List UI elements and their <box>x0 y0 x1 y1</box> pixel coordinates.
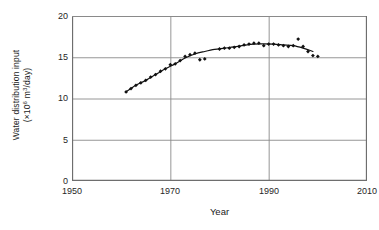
data-point <box>272 42 276 46</box>
data-point <box>232 45 236 49</box>
data-point <box>242 43 246 47</box>
data-point <box>267 42 271 46</box>
data-point <box>218 47 222 51</box>
data-point <box>296 37 300 41</box>
data-point <box>247 42 251 46</box>
y-axis-label-line1: Water distribution input <box>11 50 21 141</box>
data-point <box>198 58 202 62</box>
x-axis-label: Year <box>72 206 367 217</box>
chart-canvas <box>72 16 367 181</box>
x-tick-1970: 1970 <box>150 186 190 196</box>
plot-area <box>72 16 367 181</box>
y-tick-20: 20 <box>46 11 68 21</box>
data-point <box>257 41 261 45</box>
x-tick-2010: 2010 <box>347 186 379 196</box>
y-axis-label: Water distribution input (×106 m3/day) <box>0 0 44 190</box>
y-tick-5: 5 <box>46 135 68 145</box>
y-tick-15: 15 <box>46 52 68 62</box>
y-axis-label-line2: (×106 m3/day) <box>22 50 33 141</box>
y-tick-10: 10 <box>46 93 68 103</box>
axis-lines <box>72 16 367 181</box>
chart-figure: Water distribution input (×106 m3/day) 2… <box>0 0 379 230</box>
data-point <box>291 44 295 48</box>
x-axis-tick-labels: 1950 1970 1990 2010 <box>0 186 379 200</box>
x-tick-1990: 1990 <box>249 186 289 196</box>
data-point <box>311 54 315 58</box>
data-point <box>237 45 241 49</box>
y-tick-0: 0 <box>46 176 68 186</box>
x-tick-1950: 1950 <box>52 186 92 196</box>
data-point <box>223 46 227 50</box>
data-point <box>277 43 281 47</box>
trend-line <box>126 44 313 92</box>
gridlines <box>72 16 367 181</box>
